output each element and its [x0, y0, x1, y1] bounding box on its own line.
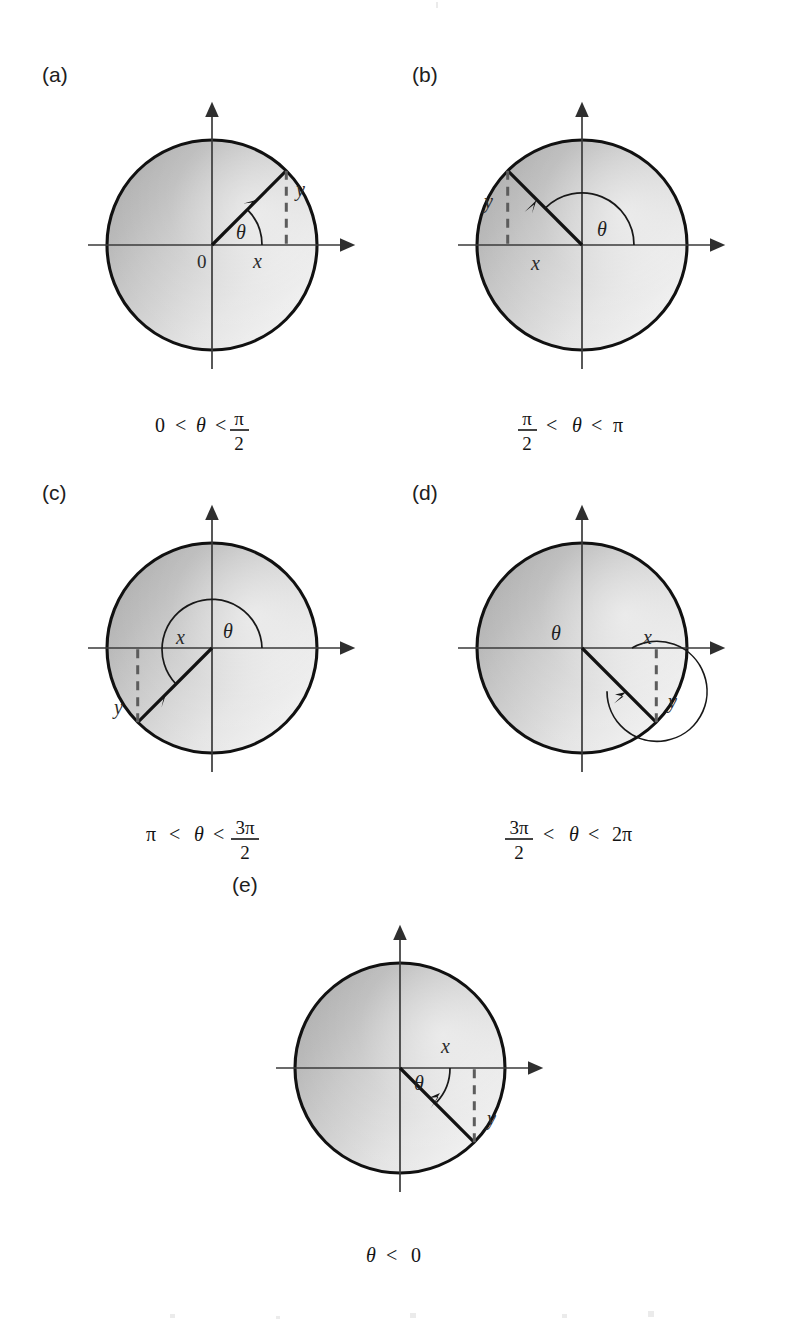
y-label: y [666, 690, 677, 713]
panel-e-caption: θ < 0 [366, 1244, 421, 1266]
caption-theta: θ [572, 414, 582, 436]
caption-theta: θ [366, 1244, 376, 1266]
panel-b-label: (b) [412, 63, 438, 86]
caption-fraction-numerator: 3π [235, 817, 255, 838]
panel-d-label: (d) [412, 481, 438, 504]
caption-rel1: < [175, 414, 186, 436]
panel-a-label: (a) [42, 63, 68, 86]
caption-left: 0 [155, 414, 165, 436]
theta-label: θ [597, 218, 607, 240]
panel-c-caption: π < θ < 3π 2 [146, 817, 259, 863]
panel-e: (e) θ x y θ < 0 [232, 873, 530, 1266]
caption-rel2: < [213, 823, 224, 845]
panel-a: (a) θ x y 0 0 < θ < π 2 [42, 63, 342, 454]
caption-fraction-numerator: π [234, 408, 244, 429]
panel-b: (b) θ x y π 2 < θ < π [412, 63, 712, 454]
theta-label: θ [236, 221, 246, 243]
caption-right: 2π [612, 823, 632, 845]
panel-c: (c) θ x y π < θ < 3π 2 [42, 481, 342, 863]
caption-fraction-denominator: 2 [234, 433, 244, 454]
figure-container: (a) θ x y 0 0 < θ < π 2 [0, 0, 801, 1325]
panel-a-caption: 0 < θ < π 2 [155, 408, 249, 454]
caption-theta: θ [194, 823, 204, 845]
panel-d-caption: 3π 2 < θ < 2π [505, 817, 632, 863]
panel-e-label: (e) [232, 873, 258, 896]
panel-d: (d) θ x y 3π 2 < θ < 2π [412, 481, 712, 863]
caption-rel1: < [543, 823, 554, 845]
x-label: x [252, 250, 262, 272]
origin-label: 0 [197, 251, 207, 272]
caption-theta: θ [569, 823, 579, 845]
y-label: y [112, 696, 123, 719]
x-label: x [175, 626, 185, 648]
panel-c-label: (c) [42, 481, 67, 504]
theta-label: θ [223, 620, 233, 642]
x-label: x [440, 1035, 450, 1057]
x-label: x [642, 626, 652, 648]
caption-rel2: < [591, 414, 602, 436]
caption-fraction-denominator: 2 [522, 433, 532, 454]
y-label: y [294, 178, 305, 201]
caption-fraction-numerator: 3π [509, 817, 529, 838]
caption-rel2: < [215, 414, 226, 436]
caption-fraction-denominator: 2 [240, 842, 250, 863]
theta-label: θ [414, 1072, 424, 1094]
caption-rel1: < [386, 1244, 397, 1266]
caption-rel1: < [546, 414, 557, 436]
y-label: y [482, 190, 493, 213]
caption-fraction-denominator: 2 [514, 842, 524, 863]
y-label: y [485, 1107, 496, 1130]
caption-right: π [613, 414, 623, 436]
caption-rel2: < [588, 823, 599, 845]
caption-left: π [146, 823, 156, 845]
panel-b-caption: π 2 < θ < π [518, 408, 623, 454]
caption-right: 0 [411, 1244, 421, 1266]
caption-rel1: < [169, 823, 180, 845]
caption-theta: θ [196, 414, 206, 436]
theta-label: θ [551, 622, 561, 644]
caption-fraction-numerator: π [522, 408, 532, 429]
unit-circle-figure: (a) θ x y 0 0 < θ < π 2 [0, 0, 801, 1325]
x-label: x [530, 252, 540, 274]
